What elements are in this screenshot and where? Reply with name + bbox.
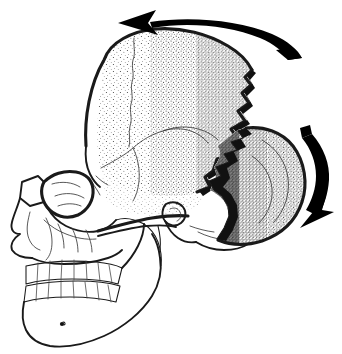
skull-illustration-canvas [0,0,342,354]
skull-diagram-figure: Lateral view of human skull with detache… [0,0,342,354]
